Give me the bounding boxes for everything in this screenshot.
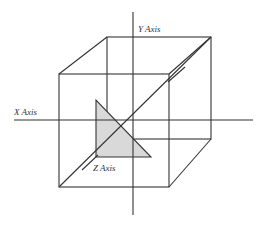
z-axis-double-mark-top bbox=[168, 67, 185, 82]
y-axis-label: Y Axis bbox=[138, 24, 161, 34]
cube-edge-bottom-right bbox=[169, 139, 211, 187]
x-axis-label: X Axis bbox=[14, 107, 37, 117]
triangle-shape bbox=[96, 100, 151, 157]
diagram-graphics bbox=[0, 0, 265, 229]
3d-axes-cube-diagram: Y Axis X Axis Z Axis bbox=[0, 0, 265, 229]
cube-edge-top-left bbox=[59, 37, 107, 74]
z-axis-label: Z Axis bbox=[93, 163, 116, 173]
